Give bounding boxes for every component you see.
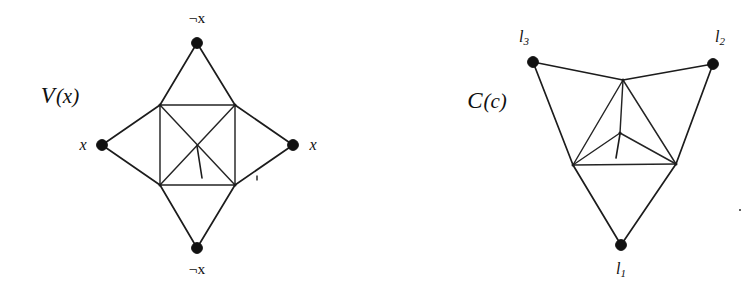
figure-root: ¬xxx¬xV(x) l3l2l1C(c) [0, 0, 754, 293]
junction-hub [619, 132, 622, 135]
edge-ibl-ibr [573, 164, 676, 165]
edge-left-bl [102, 145, 160, 185]
label-subscript: 2 [719, 35, 725, 47]
variable-gadget-name: V(x) [41, 83, 79, 108]
junction-ibl [572, 164, 575, 167]
figure-canvas: ¬xxx¬xV(x) l3l2l1C(c) [0, 0, 754, 293]
edge-hub-ibr [620, 133, 676, 164]
edge-l3-it [533, 62, 623, 80]
edge-l1-ibr [621, 164, 676, 245]
junction-tr [234, 104, 237, 107]
edge-l3-ibl [533, 62, 573, 165]
vertex-l2[interactable] [708, 59, 719, 70]
edge-bottom-br [197, 185, 235, 248]
vertex-bottom[interactable] [192, 243, 203, 254]
vertex-left[interactable] [97, 140, 108, 151]
clause-gadget-name-script: C [467, 88, 483, 113]
clause-gadget-name: C(c) [467, 88, 507, 113]
vertex-top[interactable] [192, 38, 203, 49]
vertex-right[interactable] [288, 140, 299, 151]
edge-top-tr [197, 43, 235, 105]
clause-gadget-panel: l3l2l1C(c) [467, 28, 725, 279]
vertex-l3[interactable] [528, 57, 539, 68]
paper-speck-0 [256, 176, 258, 181]
vertex-label-l2: l2 [715, 28, 725, 47]
junction-br [234, 184, 237, 187]
vertex-label-left: x [78, 136, 86, 153]
vertex-label-bottom: ¬x [189, 260, 206, 277]
vertex-l1[interactable] [616, 240, 627, 251]
edge-it-ibr [623, 80, 676, 164]
edge-l2-it [623, 64, 713, 80]
vertex-label-l3: l3 [519, 28, 529, 47]
clause-gadget-stray-stroke [616, 134, 620, 158]
edge-right-br [235, 145, 293, 185]
variable-gadget-panel: ¬xxx¬xV(x) [41, 9, 317, 277]
edge-right-tr [235, 105, 293, 145]
label-subscript: 3 [522, 35, 529, 47]
variable-gadget-stray-stroke [197, 146, 202, 178]
paper-specks [256, 176, 741, 212]
edge-top-tl [160, 43, 197, 105]
edge-l1-ibl [573, 165, 621, 245]
clause-gadget-edges [533, 62, 713, 245]
vertex-label-l1: l1 [616, 260, 626, 279]
junction-bl [159, 184, 162, 187]
junction-ibr [675, 163, 678, 166]
edge-it-ibl [573, 80, 623, 165]
edge-hub-ibl [573, 133, 620, 165]
vertex-label-right: x [308, 136, 316, 153]
variable-gadget-name-arg: (x) [56, 84, 79, 108]
label-subscript: 1 [620, 267, 626, 279]
paper-speck-1 [739, 209, 741, 211]
junction-tl [159, 104, 162, 107]
edge-bottom-bl [160, 185, 197, 248]
clause-gadget-name-arg: (c) [484, 89, 507, 113]
junction-it [622, 79, 625, 82]
edge-l2-ibr [676, 64, 713, 164]
vertex-label-top: ¬x [189, 9, 206, 26]
edge-hub-it [620, 80, 623, 133]
edge-left-tl [102, 105, 160, 145]
